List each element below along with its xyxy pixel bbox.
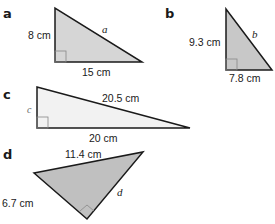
part-label-b: b [165, 6, 174, 21]
triangle-b: b 9.3 cm 7.8 cm b [165, 6, 272, 84]
part-label-d: d [3, 147, 12, 162]
side-label-d-left: 6.7 cm [2, 197, 34, 209]
side-label-a-vertical: 8 cm [28, 29, 51, 41]
side-label-a-hypotenuse: a [102, 23, 108, 35]
triangle-a: a 8 cm 15 cm a [3, 6, 142, 78]
side-label-d-top: 11.4 cm [65, 148, 102, 160]
triangle-a-shape [55, 8, 142, 62]
side-label-c-hypotenuse: 20.5 cm [102, 92, 140, 104]
triangle-c: c c 20 cm 20.5 cm [3, 87, 190, 144]
side-label-b-hypotenuse: b [252, 28, 258, 40]
right-triangles-diagram: a 8 cm 15 cm a b 9.3 cm 7.8 cm b c c 20 … [0, 0, 275, 224]
part-label-c: c [3, 87, 11, 102]
side-label-c-horizontal: 20 cm [89, 132, 118, 144]
part-label-a: a [3, 6, 12, 21]
triangle-b-shape [226, 9, 272, 70]
side-label-b-vertical: 9.3 cm [189, 36, 221, 48]
triangle-d: d 11.4 cm 6.7 cm d [2, 147, 143, 219]
side-label-d-right: d [117, 186, 123, 198]
side-label-c-vertical: c [27, 104, 32, 115]
triangle-d-shape [34, 152, 143, 219]
side-label-a-horizontal: 15 cm [82, 66, 111, 78]
side-label-b-horizontal: 7.8 cm [229, 72, 261, 84]
